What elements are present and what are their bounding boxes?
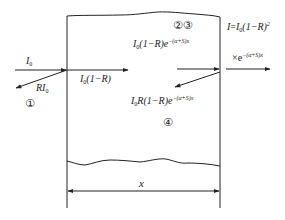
- top-break-edge: [67, 12, 220, 17]
- square-exponent: 2: [267, 21, 270, 27]
- incident-subscript: 0: [29, 61, 32, 67]
- attenuation-exponent: −(α+S)x: [242, 52, 263, 58]
- region-marker-4: ④: [163, 117, 173, 128]
- reflection-factor: R(1−R)e: [137, 95, 172, 106]
- transmittance-factor: (1−R): [242, 21, 267, 32]
- region-marker-1: ①: [25, 98, 35, 109]
- times-e: ×e: [232, 52, 242, 63]
- thickness-label: x: [139, 178, 144, 189]
- front-reflection-label: RI0: [36, 83, 48, 94]
- incident-label: I0: [26, 56, 32, 67]
- output-attenuation-factor: ×e−(α+S)x: [232, 52, 263, 63]
- transmitted-label: I0(1−R): [80, 74, 111, 85]
- attenuation-factor: (1−R)e: [139, 38, 168, 49]
- back-reflection-arrow: [175, 72, 220, 87]
- transmittance-factor: (1−R): [86, 73, 111, 84]
- attenuated-label: I0(1−R)e−(α+S)x: [133, 38, 189, 50]
- back-reflection-label: I0R(1−R)e−(α+S)x: [131, 95, 193, 107]
- region-marker-2-3: ②③: [173, 20, 193, 31]
- bottom-break-edge: [67, 159, 220, 166]
- output-equation: I=I0(1−R)2: [227, 21, 270, 33]
- intensity-subscript: 0: [45, 88, 48, 94]
- attenuation-exponent: −(α+S)x: [172, 95, 193, 101]
- attenuation-exponent: −(α+S)x: [168, 38, 189, 44]
